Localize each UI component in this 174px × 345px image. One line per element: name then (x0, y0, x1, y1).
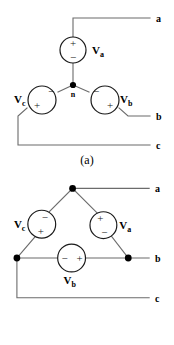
source-vb-plus-sign: + (107, 99, 113, 111)
terminal-c-label-figure-a: c (156, 140, 161, 151)
source-vc-plus-sign: + (34, 99, 40, 111)
source-vc-label: V (14, 218, 22, 230)
source-va-minus-sign: − (70, 51, 76, 63)
figure-b-wires (17, 188, 149, 297)
source-vc-label-subscript: c (22, 99, 26, 108)
figure-panel: + − V a n − + V c − + V b (0, 0, 174, 345)
left-node-dot (14, 255, 21, 262)
wire-apex-to-vc (49, 188, 73, 212)
wire-to-terminal-a (73, 18, 150, 37)
figure-b-delta-circuit: − + V c + − V a − + V b a b c (0, 170, 174, 345)
source-va-plus-sign: + (70, 37, 76, 49)
source-va-label: V (119, 219, 127, 231)
source-vc-label-subscript: c (22, 224, 26, 233)
terminal-a-label-figure-b: a (155, 183, 160, 194)
source-vc-minus-sign: − (42, 211, 48, 223)
figure-a-caption: (a) (0, 153, 174, 168)
source-vb-figure-b: − + (58, 244, 86, 272)
neutral-node-label: n (71, 90, 76, 99)
source-vc-label: V (14, 93, 22, 105)
source-vb-label-subscript: b (72, 280, 77, 289)
source-vb-label: V (64, 274, 72, 286)
source-vb-plus-sign: + (76, 252, 82, 264)
apex-node-dot (69, 185, 76, 192)
source-va-figure-a: + − (60, 37, 86, 63)
terminal-a-label-figure-a: a (156, 13, 161, 24)
terminal-b-label-figure-b: b (155, 253, 161, 264)
wire-vc-to-left-node (17, 237, 35, 258)
figure-a-svg: + − V a n − + V c − + V b (0, 0, 174, 175)
source-vb-label: V (120, 93, 128, 105)
source-va-minus-sign: − (101, 226, 107, 238)
terminal-c-label-figure-b: c (155, 293, 160, 304)
source-va-label: V (92, 44, 100, 56)
right-node-dot (125, 255, 132, 262)
figure-a-wires (18, 18, 150, 145)
source-va-figure-b: + − (90, 212, 117, 239)
source-vc-minus-sign: − (48, 85, 54, 97)
source-va-label-subscript: a (100, 50, 104, 59)
wire-va-to-right-node (111, 236, 128, 258)
source-vb-label-subscript: b (128, 99, 133, 108)
figure-a-wye-circuit: + − V a n − + V c − + V b (0, 0, 174, 175)
wire-to-terminal-b (119, 108, 150, 116)
source-va-plus-sign: + (97, 212, 103, 224)
neutral-node-dot (70, 82, 76, 88)
figure-b-svg: − + V c + − V a − + V b a b c (0, 170, 174, 345)
source-vb-minus-sign: − (93, 85, 99, 97)
source-vc-plus-sign: + (38, 225, 44, 237)
source-vb-figure-a: − + (91, 85, 119, 114)
terminal-b-label-figure-a: b (156, 111, 162, 122)
source-va-label-subscript: a (127, 225, 131, 234)
wire-apex-to-va (73, 188, 99, 214)
source-vc-figure-b: − + (28, 210, 56, 238)
source-vc-figure-a: − + (28, 85, 56, 114)
source-vb-minus-sign: − (62, 252, 68, 264)
